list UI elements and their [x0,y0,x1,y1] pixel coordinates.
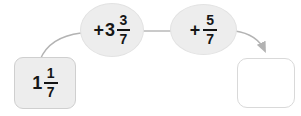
jump-2-numerator: 5 [203,13,217,31]
jump-2-fraction: 5 7 [203,13,217,46]
jump-2-operator: + [190,21,201,39]
start-whole-number: 1 [32,74,42,92]
start-to-jump1-arc [40,33,81,60]
jump-1-denominator: 7 [120,31,128,47]
jump2-to-answer-arrow [235,31,265,51]
answer-box[interactable] [237,58,295,108]
start-fraction: 1 7 [44,66,58,99]
jump-2-denominator: 7 [206,31,214,47]
jump-2-bubble: + 5 7 [170,4,237,55]
jump-1-operator: + [94,21,105,39]
jump-1-fraction: 3 7 [117,13,131,46]
start-numerator: 1 [44,66,58,84]
jump-1-numerator: 3 [117,13,131,31]
jump-1-whole-number: 3 [105,21,115,39]
start-denominator: 7 [47,84,55,100]
fraction-jump-diagram: 1 1 7 + 3 3 7 + 5 7 [0,0,301,116]
jump-1-bubble: + 3 3 7 [80,3,144,57]
start-value-box: 1 1 7 [14,57,76,109]
